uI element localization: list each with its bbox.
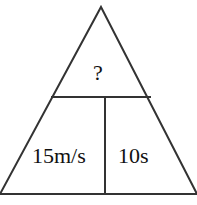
bottom-left-label: 15m/s (32, 145, 86, 167)
bottom-right-label: 10s (118, 145, 149, 167)
triangle-outline (0, 7, 197, 194)
top-label: ? (93, 62, 103, 84)
triangle-diagram (0, 0, 197, 205)
